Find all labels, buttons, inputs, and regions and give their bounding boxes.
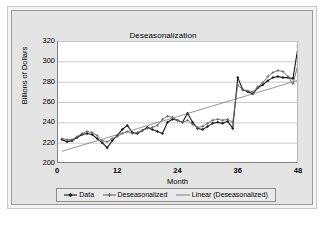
x-axis-ticks: 012243648 <box>57 166 298 176</box>
y-axis-ticks: 200220240260280300320 <box>31 41 55 163</box>
y-tick-label: 220 <box>33 139 55 147</box>
chart-object[interactable]: Deseasonalization Billions of Dollars 20… <box>11 10 313 205</box>
legend-item[interactable]: Deseasonalized <box>103 191 168 199</box>
plot-svg <box>57 41 298 163</box>
y-tick-label: 320 <box>33 37 55 45</box>
x-tick-label: 24 <box>166 166 190 175</box>
legend-label: Data <box>79 191 94 199</box>
chart-title: Deseasonalization <box>12 31 314 40</box>
caption-sliver <box>10 218 210 224</box>
y-axis-title: Billions of Dollars <box>20 21 29 131</box>
x-axis-title: Month <box>57 177 298 186</box>
y-tick-label: 240 <box>33 118 55 126</box>
chart-legend[interactable]: DataDeseasonalizedLinear (Deseasonalized… <box>56 188 276 202</box>
legend-label: Deseasonalized <box>118 191 168 199</box>
legend-marker-cross-icon <box>103 191 116 199</box>
legend-marker-diamond-icon <box>64 191 77 199</box>
legend-item[interactable]: Linear (Deseasonalized) <box>176 191 268 199</box>
x-tick-label: 36 <box>226 166 250 175</box>
y-tick-label: 280 <box>33 78 55 86</box>
legend-item[interactable]: Data <box>64 191 94 199</box>
y-tick-label: 300 <box>33 57 55 65</box>
legend-label: Linear (Deseasonalized) <box>192 191 268 199</box>
legend-marker-none-icon <box>176 191 190 199</box>
x-tick-label: 0 <box>45 166 69 175</box>
x-tick-label: 48 <box>286 166 310 175</box>
x-tick-label: 12 <box>105 166 129 175</box>
plot-area[interactable] <box>57 41 298 163</box>
figure-container: Deseasonalization Billions of Dollars 20… <box>0 0 324 226</box>
y-tick-label: 260 <box>33 98 55 106</box>
